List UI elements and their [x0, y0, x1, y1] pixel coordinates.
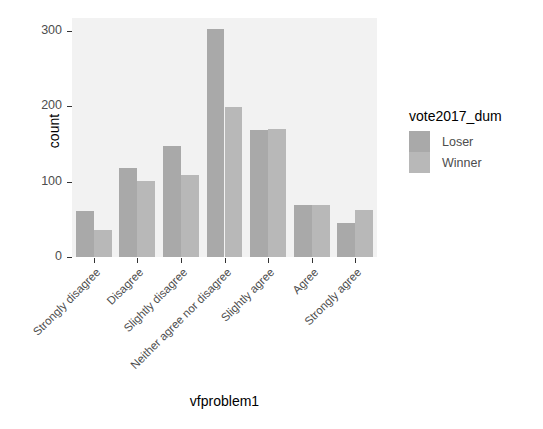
bar [181, 175, 199, 257]
x-axis-tick-mark [268, 258, 269, 263]
x-axis-tick-mark [355, 258, 356, 263]
x-axis-tick-mark [312, 258, 313, 263]
y-axis-tick-mark [67, 257, 72, 258]
bar [294, 205, 312, 257]
plot-panel [72, 18, 377, 257]
legend-entry: Loser [409, 131, 537, 152]
x-axis-tick-mark [181, 258, 182, 263]
y-axis-tick-label: 100 [18, 175, 62, 188]
bar [163, 146, 181, 257]
legend: vote2017_dum LoserWinner [409, 108, 537, 173]
legend-label: Winner [442, 156, 482, 170]
x-axis-tick-mark [94, 258, 95, 263]
bar [119, 168, 137, 257]
bar-chart: count 0100200300 Strongly disagreeDisagr… [0, 0, 543, 429]
legend-entry: Winner [409, 152, 537, 173]
legend-title: vote2017_dum [409, 108, 537, 124]
y-axis-tick-label: 0 [18, 250, 62, 263]
x-axis-tick-mark [137, 258, 138, 263]
bar [225, 107, 243, 257]
bar [76, 211, 94, 257]
bar [250, 130, 268, 257]
legend-label: Loser [442, 135, 473, 149]
bar [207, 29, 225, 257]
y-axis-tick-label: 200 [18, 99, 62, 112]
bar [94, 230, 112, 257]
bar [312, 205, 330, 257]
legend-entries: LoserWinner [409, 131, 537, 173]
legend-color-swatch [409, 152, 430, 173]
x-axis-tick-mark [225, 258, 226, 263]
bar [337, 223, 355, 257]
bar [355, 210, 373, 257]
legend-color-swatch [409, 131, 430, 152]
bar [137, 181, 155, 257]
y-axis-tick-label: 300 [18, 24, 62, 37]
bar [268, 129, 286, 257]
x-axis-title: vfproblem1 [72, 393, 377, 409]
